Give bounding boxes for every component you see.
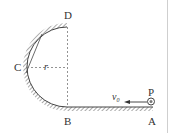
label-c: C [14,61,21,73]
arrow-head-icon [124,100,130,104]
label-v0: v0 [112,91,119,103]
label-d: D [64,9,72,21]
label-r: r [44,61,48,72]
track-diagram: D C B A P r v0 [0,0,170,133]
label-a: A [148,115,156,127]
label-b: B [64,115,71,127]
label-p: P [148,86,154,98]
floor-hatching [67,107,153,111]
